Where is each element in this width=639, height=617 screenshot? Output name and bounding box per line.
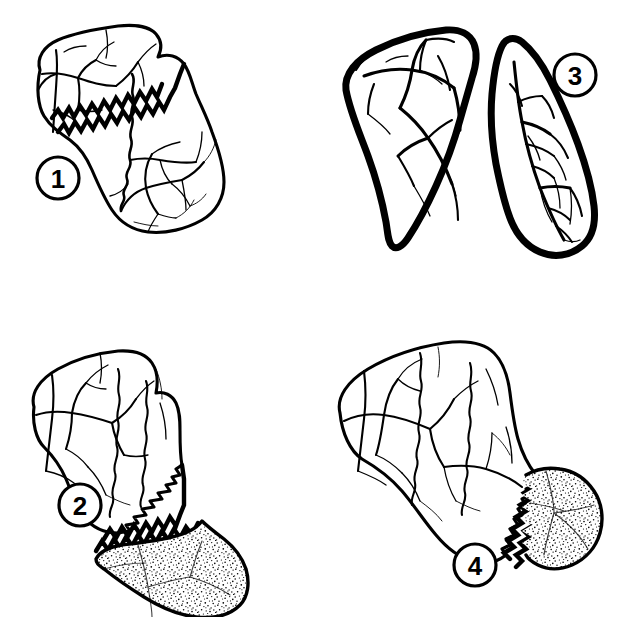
panel-2: 2: [0, 307, 320, 617]
bone-outline-main-4: [339, 342, 536, 563]
label-text-1: 1: [51, 164, 65, 194]
panel-3-drawing: 3: [320, 0, 639, 310]
panel-4-drawing: 4: [320, 307, 639, 617]
panel-1-label: 1: [37, 157, 79, 199]
label-text-4: 4: [468, 551, 483, 581]
panel-1-drawing: 1: [0, 0, 320, 310]
panel-4-label: 4: [454, 544, 496, 586]
bone-outline-upper-2: [33, 351, 182, 533]
panel-3-label: 3: [554, 54, 596, 96]
panel-2-label: 2: [59, 484, 101, 526]
panel-2-drawing: 2: [0, 307, 320, 617]
panel-3: 3: [320, 0, 639, 310]
figure-root: 1: [0, 0, 639, 617]
panel-4: 4: [320, 307, 639, 617]
panel-1: 1: [0, 0, 320, 310]
label-text-2: 2: [73, 491, 87, 521]
label-text-3: 3: [568, 61, 582, 91]
